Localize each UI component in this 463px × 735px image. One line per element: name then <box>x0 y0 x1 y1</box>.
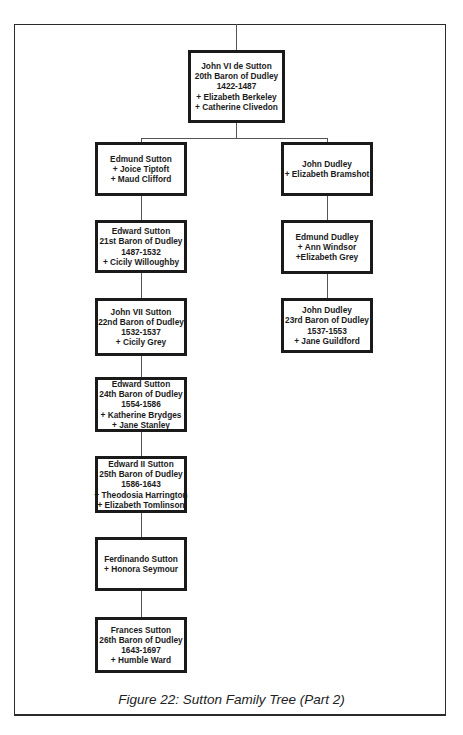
node-line: + Ann Windsor <box>298 242 356 252</box>
connector-left-3 <box>141 356 142 377</box>
node-line: 1422-1487 <box>217 81 257 91</box>
node-line: John Dudley <box>302 159 352 169</box>
node-line: + Honora Seymour <box>104 564 178 574</box>
node-line: + Elizabeth Tomlinson <box>97 500 184 510</box>
node-ferdinando-sutton: Ferdinando Sutton + Honora Seymour <box>95 537 187 591</box>
node-line: 1537-1553 <box>307 326 347 336</box>
node-edward-ii-sutton: Edward II Sutton 25th Baron of Dudley 15… <box>95 456 187 513</box>
node-line: Edward Sutton <box>112 226 171 236</box>
node-line: Edward Sutton <box>112 379 171 389</box>
node-edward-sutton-24th: Edward Sutton 24th Baron of Dudley 1554-… <box>95 377 187 432</box>
node-line: + Maud Clifford <box>111 174 172 184</box>
node-john-dudley-23rd: John Dudley 23rd Baron of Dudley 1537-15… <box>281 298 373 353</box>
connector-root-down <box>236 123 237 138</box>
connector-left-1 <box>141 196 142 220</box>
node-line: + Humble Ward <box>111 655 171 665</box>
figure-frame <box>14 24 446 716</box>
node-line: 21st Baron of Dudley <box>100 236 183 246</box>
node-line: + Elizabeth Bramshot <box>285 169 370 179</box>
node-line: 24th Baron of Dudley <box>99 389 182 399</box>
node-line: 1487-1532 <box>121 247 161 257</box>
node-line: + Joice Tiptoft <box>113 164 169 174</box>
node-line: + Cicily Willoughby <box>103 257 179 267</box>
node-line: + Katherine Brydges <box>101 410 182 420</box>
node-edmund-sutton: Edmund Sutton + Joice Tiptoft + Maud Cli… <box>95 142 187 196</box>
node-line: 1586-1643 <box>121 479 161 489</box>
node-line: + Elizabeth Berkeley <box>196 92 276 102</box>
node-frances-sutton: Frances Sutton 26th Baron of Dudley 1643… <box>95 617 187 673</box>
node-line: 23rd Baron of Dudley <box>285 315 369 325</box>
node-line: John Dudley <box>302 305 352 315</box>
node-line: 20th Baron of Dudley <box>195 71 278 81</box>
node-line: + Theodosia Harrington <box>94 490 187 500</box>
node-line: Edmund Sutton <box>110 154 172 164</box>
node-line: +Elizabeth Grey <box>296 252 358 262</box>
connector-left-2 <box>141 273 142 298</box>
node-john-vii-sutton: John VII Sutton 22nd Baron of Dudley 153… <box>95 298 187 356</box>
node-line: + Catherine Clivedon <box>195 102 278 112</box>
node-line: John VI de Sutton <box>201 61 272 71</box>
node-john-vi-de-sutton: John VI de Sutton 20th Baron of Dudley 1… <box>188 50 285 123</box>
node-line: Ferdinando Sutton <box>104 554 178 564</box>
connector-left-4 <box>141 432 142 456</box>
figure-caption: Figure 22: Sutton Family Tree (Part 2) <box>0 692 463 707</box>
node-line: + Jane Stanley <box>112 420 170 430</box>
node-line: + Cicily Grey <box>116 337 167 347</box>
node-line: Edward II Sutton <box>108 459 173 469</box>
node-line: Edmund Dudley <box>295 232 358 242</box>
connector-right-1 <box>327 196 328 220</box>
connector-right-2 <box>327 274 328 298</box>
connector-top <box>236 24 237 50</box>
node-line: 25th Baron of Dudley <box>99 469 182 479</box>
connector-left-5 <box>141 513 142 537</box>
node-line: 1643-1697 <box>121 645 161 655</box>
node-line: 1532-1537 <box>121 327 161 337</box>
node-edward-sutton-21st: Edward Sutton 21st Baron of Dudley 1487-… <box>95 220 187 273</box>
node-line: 1554-1586 <box>121 399 161 409</box>
node-line: Frances Sutton <box>111 625 171 635</box>
node-line: 22nd Baron of Dudley <box>98 317 184 327</box>
node-john-dudley: John Dudley + Elizabeth Bramshot <box>281 142 373 196</box>
connector-left-6 <box>141 591 142 617</box>
node-line: 26th Baron of Dudley <box>99 635 182 645</box>
node-line: + Jane Guildford <box>294 336 360 346</box>
node-edmund-dudley: Edmund Dudley + Ann Windsor +Elizabeth G… <box>281 220 373 274</box>
connector-sibling-bar <box>141 138 328 139</box>
node-line: John VII Sutton <box>111 307 172 317</box>
